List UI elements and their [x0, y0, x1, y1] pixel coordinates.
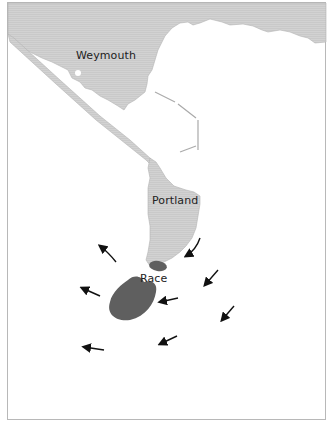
- harbour-breakwater-north: [155, 92, 175, 102]
- label-weymouth: Weymouth: [76, 49, 136, 62]
- arrow-icon: [160, 336, 177, 344]
- arrow-icon: [205, 270, 218, 285]
- arrow-icon: [100, 246, 116, 262]
- label-portland: Portland: [152, 194, 198, 207]
- isle-of-portland: [146, 158, 200, 266]
- lagoon-island: [75, 70, 81, 76]
- mainland-coast: [8, 3, 326, 110]
- label-race: Race: [140, 272, 167, 285]
- arrow-icon: [84, 347, 104, 350]
- arrow-icon: [160, 298, 178, 302]
- harbour-breakwater-east: [178, 104, 198, 150]
- arrow-icon: [82, 288, 100, 296]
- map-canvas: [0, 0, 331, 426]
- harbour-breakwater-south: [180, 146, 196, 152]
- arrow-icon: [222, 306, 234, 320]
